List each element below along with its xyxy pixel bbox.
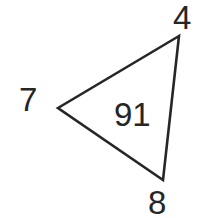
vertex-label-left: 7: [19, 83, 37, 116]
vertex-label-top: 4: [173, 1, 191, 34]
geometry-figure: 4 7 8 91: [0, 0, 205, 218]
vertex-label-bottom: 8: [148, 186, 166, 218]
interior-angle-label: 91: [114, 98, 151, 131]
